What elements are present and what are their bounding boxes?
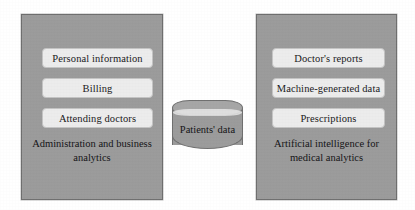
left-item-personal-information: Personal information [42,48,153,68]
left-panel-caption: Administration and business analytics [28,137,156,165]
diagram-canvas: Personal information Billing Attending d… [0,0,415,210]
cylinder-bottom-cap [172,136,243,149]
right-item-machine-generated-data: Machine-generated data [272,78,385,98]
left-item-label: Attending doctors [59,113,136,124]
cylinder-rim-highlight [173,109,242,116]
patients-data-store: Patients' data [172,100,243,149]
left-panel: Personal information Billing Attending d… [21,14,163,200]
right-item-prescriptions: Prescriptions [272,108,385,128]
right-item-label: Machine-generated data [277,83,380,94]
left-item-label: Personal information [52,53,142,64]
patients-data-label: Patients' data [170,124,245,135]
right-panel-caption: Artificial intelligence for medical anal… [263,137,390,165]
left-item-billing: Billing [42,78,153,98]
right-item-label: Doctor's reports [294,53,363,64]
left-item-attending-doctors: Attending doctors [42,108,153,128]
right-panel: Doctor's reports Machine-generated data … [256,14,397,200]
left-item-label: Billing [83,83,113,94]
right-item-doctors-reports: Doctor's reports [272,48,385,68]
right-item-label: Prescriptions [300,113,356,124]
